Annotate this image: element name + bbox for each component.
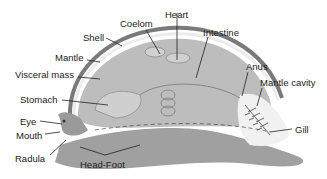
label-shell: Shell: [83, 33, 104, 43]
label-mantle-cavity: Mantle cavity: [260, 78, 315, 88]
label-head-foot: Head-Foot: [80, 160, 125, 170]
label-gill: Gill: [295, 125, 309, 135]
label-intestine: Intestine: [203, 28, 239, 38]
label-eye: Eye: [20, 117, 36, 127]
label-mantle: Mantle: [55, 53, 84, 63]
heart: [166, 53, 190, 63]
label-visceral-mass: Visceral mass: [15, 70, 74, 80]
label-anus: Anus: [246, 62, 268, 72]
label-heart: Heart: [165, 10, 188, 20]
label-coelom: Coelom: [120, 19, 153, 29]
mollusc-diagram: Shell Coelom Heart Intestine Mantle Visc…: [0, 0, 327, 179]
coelom: [145, 47, 165, 57]
mollusc-illustration: [0, 0, 327, 179]
label-mouth: Mouth: [16, 131, 42, 141]
eye: [63, 120, 66, 123]
label-radula: Radula: [15, 154, 45, 164]
mantle-cavity: [238, 94, 290, 146]
label-stomach: Stomach: [20, 95, 58, 105]
